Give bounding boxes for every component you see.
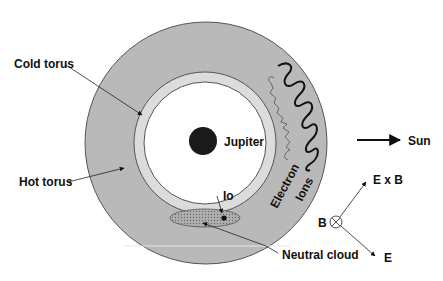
exb-label: E x B	[373, 173, 403, 187]
neutral-cloud-label: Neutral cloud	[282, 248, 359, 262]
torus-diagram: Jupiter Io Neutral cloud Cold torus Hot …	[0, 0, 443, 281]
jupiter-label: Jupiter	[224, 135, 264, 149]
e-label: E	[384, 251, 392, 265]
jupiter-planet	[189, 127, 217, 155]
io-label: Io	[223, 189, 234, 203]
b-field-symbol	[330, 216, 342, 228]
io-moon	[221, 215, 226, 220]
cold-torus-label: Cold torus	[14, 57, 74, 71]
b-label: B	[318, 216, 327, 230]
neutral-cloud	[170, 209, 240, 227]
hot-torus-label: Hot torus	[19, 175, 73, 189]
exb-vector-arrow	[340, 182, 366, 217]
sun-label: Sun	[408, 134, 431, 148]
